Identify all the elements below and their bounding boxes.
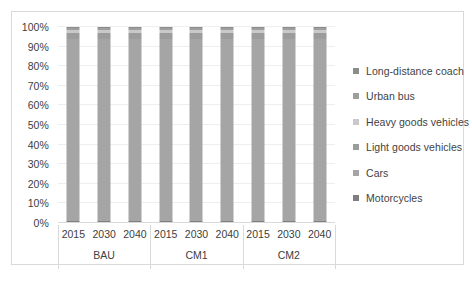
y-axis-tick-label: 80% <box>28 60 49 72</box>
bar-segment[interactable] <box>128 39 141 221</box>
category-axis-line <box>58 222 335 223</box>
x-axis-group-labels: BAUCM1CM2 <box>58 245 335 269</box>
legend-swatch-icon <box>353 93 359 99</box>
stacked-bar[interactable] <box>221 27 234 223</box>
legend-item-label: Cars <box>366 167 388 179</box>
chart-container: 0%10%20%30%40%50%60%70%80%90%100% 201520… <box>11 11 464 265</box>
legend-item-label: Heavy goods vehicles <box>366 116 469 128</box>
legend-item-label: Urban bus <box>366 90 415 102</box>
bar-segment[interactable] <box>98 39 111 221</box>
legend-item[interactable]: Motorcycles <box>353 186 465 212</box>
bar-series-group <box>58 27 335 223</box>
stacked-bar[interactable] <box>159 27 172 223</box>
y-axis-tick-label: 100% <box>22 21 49 33</box>
bar-slot <box>212 27 243 223</box>
group-separator-tick <box>58 225 59 269</box>
x-axis-tick-label: 2015 <box>246 228 269 240</box>
legend-swatch-icon <box>353 170 359 176</box>
stacked-bar[interactable] <box>282 27 295 223</box>
x-axis-tick-label: 2015 <box>154 228 177 240</box>
bar-segment[interactable] <box>221 39 234 221</box>
group-separator-tick <box>243 225 244 269</box>
legend-swatch-icon <box>353 144 359 150</box>
legend-item[interactable]: Cars <box>353 160 465 186</box>
legend-item-label: Light goods vehicles <box>366 141 462 153</box>
group-separator-tick <box>150 225 151 269</box>
y-axis-tick-label: 20% <box>28 178 49 190</box>
bar-segment[interactable] <box>252 39 265 221</box>
x-axis-tick-label: 2015 <box>62 228 85 240</box>
stacked-bar[interactable] <box>190 27 203 223</box>
bar-slot <box>120 27 151 223</box>
stacked-bar[interactable] <box>252 27 265 223</box>
x-axis-group-label: CM2 <box>278 249 300 261</box>
x-axis-tick-label: 2030 <box>92 228 115 240</box>
bar-slot <box>273 27 304 223</box>
y-axis: 0%10%20%30%40%50%60%70%80%90%100% <box>12 27 54 223</box>
bar-slot <box>58 27 89 223</box>
bar-slot <box>89 27 120 223</box>
stacked-bar[interactable] <box>98 27 111 223</box>
bar-segment[interactable] <box>190 39 203 221</box>
legend-item[interactable]: Light goods vehicles <box>353 135 465 161</box>
chart-legend: Long-distance coachUrban busHeavy goods … <box>353 58 465 211</box>
group-separator-tick <box>335 225 336 269</box>
legend-item-label: Motorcycles <box>366 192 423 204</box>
x-axis-category-labels: 201520302040201520302040201520302040 <box>58 225 335 245</box>
legend-item[interactable]: Urban bus <box>353 84 465 110</box>
legend-item-label: Long-distance coach <box>366 65 464 77</box>
bar-segment[interactable] <box>313 39 326 221</box>
bar-slot <box>243 27 274 223</box>
x-axis-tick-label: 2040 <box>308 228 331 240</box>
y-axis-tick-label: 60% <box>28 99 49 111</box>
legend-item[interactable]: Heavy goods vehicles <box>353 109 465 135</box>
bar-slot <box>304 27 335 223</box>
bar-segment[interactable] <box>159 39 172 221</box>
x-axis-tick-label: 2040 <box>216 228 239 240</box>
legend-swatch-icon <box>353 119 359 125</box>
y-axis-tick-label: 40% <box>28 139 49 151</box>
x-axis-group-label: CM1 <box>185 249 207 261</box>
stacked-bar[interactable] <box>128 27 141 223</box>
x-axis-tick-label: 2030 <box>277 228 300 240</box>
bar-segment[interactable] <box>282 39 295 221</box>
y-axis-tick-label: 50% <box>28 119 49 131</box>
legend-swatch-icon <box>353 68 359 74</box>
legend-item[interactable]: Long-distance coach <box>353 58 465 84</box>
y-axis-tick-label: 0% <box>34 217 49 229</box>
legend-swatch-icon <box>353 195 359 201</box>
y-axis-tick-label: 10% <box>28 197 49 209</box>
y-axis-tick-label: 90% <box>28 41 49 53</box>
bar-segment[interactable] <box>67 39 80 221</box>
x-axis-tick-label: 2040 <box>123 228 146 240</box>
y-axis-tick-label: 70% <box>28 80 49 92</box>
bar-slot <box>150 27 181 223</box>
plot-area <box>58 27 335 223</box>
y-axis-tick-label: 30% <box>28 158 49 170</box>
stacked-bar[interactable] <box>67 27 80 223</box>
x-axis-tick-label: 2030 <box>185 228 208 240</box>
bar-slot <box>181 27 212 223</box>
stacked-bar[interactable] <box>313 27 326 223</box>
x-axis-group-label: BAU <box>93 249 115 261</box>
